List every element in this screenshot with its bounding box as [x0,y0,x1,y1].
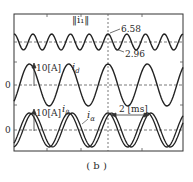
id-label: id [72,62,80,76]
max-leader [110,29,120,33]
scale-label-mid: 10[A] [36,63,61,73]
ibeta-label: iβ [62,104,69,118]
max-value-label: 6.58 [121,24,141,34]
ibeta-waveform [14,113,183,147]
time-span-label: 2 [ms] [119,104,148,114]
id-subscript: d [75,67,79,75]
ialpha-subscript: α [90,115,95,123]
figure-caption: ( b ) [0,160,193,171]
ibeta-subscript: β [65,109,69,117]
ialpha-label: iα [87,110,95,124]
zero-label-mid: 0 [5,80,11,90]
min-value-label: 2.96 [125,49,145,59]
norm-label: ‖i₁‖ [72,15,89,25]
zero-label-bot: 0 [5,125,11,135]
chart-plot [0,0,193,182]
scale-label-bot: 10[A] [36,108,61,118]
